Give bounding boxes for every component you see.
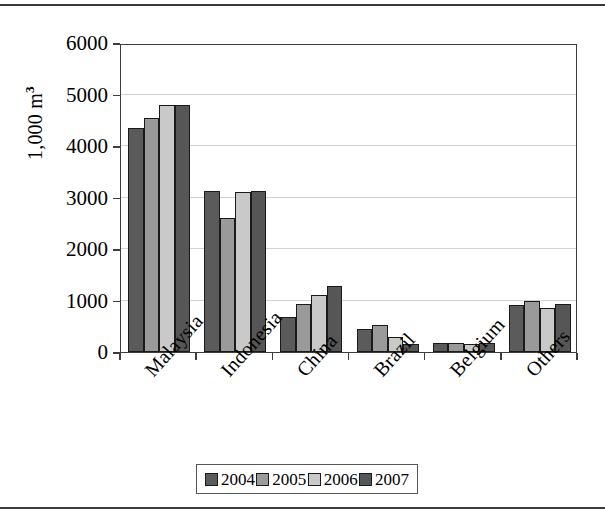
bar-belgium-2004 <box>433 343 449 352</box>
legend-swatch-2004 <box>205 473 218 486</box>
y-axis-tick-label: 0 <box>52 342 108 363</box>
bar-others-2005 <box>524 301 540 353</box>
legend-item-2004[interactable]: 2004 <box>205 471 255 488</box>
legend-label-2004: 2004 <box>221 471 255 488</box>
y-axis-tick-mark <box>113 249 120 251</box>
y-axis-tick-label: 6000 <box>52 33 108 54</box>
y-axis-tick-mark <box>113 95 120 97</box>
y-axis-tick-label: 2000 <box>52 239 108 260</box>
x-axis-tick-mark <box>272 353 274 360</box>
bar-chart: 1,000 m3 0100020003000400050006000 Malay… <box>0 0 605 520</box>
y-axis-title-text: 1,000 m <box>24 93 46 160</box>
y-axis-title-superscript: 3 <box>22 86 37 93</box>
legend-swatch-2006 <box>308 473 321 486</box>
x-axis-tick-mark <box>500 353 502 360</box>
bar-indonesia-2005 <box>220 218 236 352</box>
y-axis-tick-mark <box>113 198 120 200</box>
bar-malaysia-2004 <box>128 128 144 352</box>
bar-brazil-2004 <box>357 329 373 352</box>
y-axis-tick-mark <box>113 43 120 45</box>
bar-indonesia-2004 <box>204 191 220 352</box>
y-axis-tick-mark <box>113 301 120 303</box>
legend-item-2006[interactable]: 2006 <box>308 471 358 488</box>
legend-label-2005: 2005 <box>272 471 306 488</box>
y-axis-tick-label: 4000 <box>52 136 108 157</box>
y-axis-tick-label: 1000 <box>52 291 108 312</box>
legend-swatch-2005 <box>256 473 269 486</box>
y-axis-tick-mark <box>113 146 120 148</box>
x-axis-tick-mark <box>576 353 578 360</box>
bar-malaysia-2005 <box>144 118 160 352</box>
gridline <box>121 94 576 95</box>
bar-malaysia-2006 <box>159 105 175 352</box>
bar-others-2004 <box>509 305 525 352</box>
chart-page: 1,000 m3 0100020003000400050006000 Malay… <box>0 0 605 520</box>
bar-china-2005 <box>296 304 312 352</box>
plot-area <box>120 44 577 353</box>
y-axis-title: 1,000 m3 <box>22 86 47 160</box>
x-axis-tick-mark <box>195 353 197 360</box>
y-axis-tick-label: 5000 <box>52 85 108 106</box>
x-axis-tick-mark <box>348 353 350 360</box>
chart-legend: 2004200520062007 <box>196 464 418 494</box>
legend-item-2007[interactable]: 2007 <box>359 471 409 488</box>
legend-item-2005[interactable]: 2005 <box>256 471 306 488</box>
x-axis-tick-mark <box>424 353 426 360</box>
legend-swatch-2007 <box>359 473 372 486</box>
y-axis-tick-label: 3000 <box>52 188 108 209</box>
legend-label-2007: 2007 <box>375 471 409 488</box>
x-axis-tick-mark <box>119 353 121 360</box>
legend-label-2006: 2006 <box>324 471 358 488</box>
